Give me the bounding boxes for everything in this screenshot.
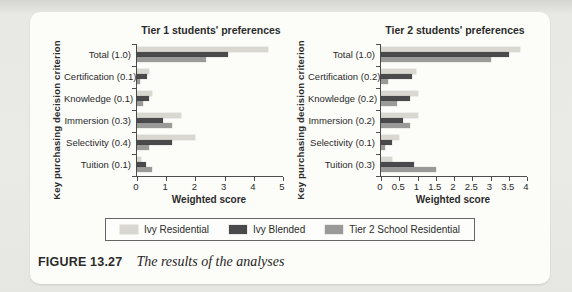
x-axis-tick-label: 2 xyxy=(192,181,197,192)
x-axis-tick-label: 1 xyxy=(163,181,168,192)
y-axis-tick xyxy=(376,154,380,155)
bar xyxy=(381,79,388,84)
y-axis-label: Key purchasing decision criterion xyxy=(51,40,62,200)
category-label: Tuition (0.3) xyxy=(308,154,380,176)
plot-area xyxy=(380,44,527,177)
legend-label: Tier 2 School Residential xyxy=(349,224,460,235)
chart-tier2-students: Key purchasing decision criterion Tier 2… xyxy=(292,20,530,205)
bar xyxy=(381,167,436,172)
category-labels: Total (1.0)Certification (0.2)Knowledge … xyxy=(308,44,380,205)
category-label: Immersion (0.3) xyxy=(64,110,136,132)
category-label: Tuition (0.1) xyxy=(64,154,136,176)
x-axis-label: Weighted score xyxy=(136,194,282,205)
x-axis-tick-label: 0.5 xyxy=(392,181,405,192)
category-label: Selectivity (0.4) xyxy=(64,132,136,154)
legend-label: Ivy Residential xyxy=(144,224,209,235)
y-axis-tick xyxy=(132,154,136,155)
category-label: Certification (0.1) xyxy=(64,66,136,88)
y-axis-tick xyxy=(376,110,380,111)
chart-title: Tier 1 students' preferences xyxy=(136,20,286,44)
legend-swatch-icon xyxy=(325,225,343,234)
plot-wrap: 012345 Weighted score xyxy=(136,44,286,205)
x-axis-label: Weighted score xyxy=(380,194,526,205)
figure-caption: The results of the analyses xyxy=(136,254,284,270)
x-axis-tick-label: 0 xyxy=(133,181,138,192)
x-axis-ticks: 00.511.522.533.54 xyxy=(380,177,526,192)
y-axis-tick xyxy=(132,110,136,111)
category-label: Immersion (0.2) xyxy=(308,110,380,132)
category-labels: Total (1.0)Certification (0.1)Knowledge … xyxy=(64,44,136,205)
y-axis-tick xyxy=(132,88,136,89)
x-axis-tick-label: 0 xyxy=(377,181,382,192)
figure-label: FIGURE 13.27 xyxy=(38,255,122,269)
figure-card: Key purchasing decision criterion Tier 1… xyxy=(30,12,550,284)
category-label: Knowledge (0.1) xyxy=(64,88,136,110)
bar xyxy=(381,57,491,62)
plot-area xyxy=(136,44,283,177)
legend-swatch-icon xyxy=(229,225,247,234)
y-axis-tick xyxy=(376,132,380,133)
charts-row: Key purchasing decision criterion Tier 1… xyxy=(30,12,550,205)
x-axis-tick-label: 2.5 xyxy=(465,181,478,192)
chart-tier1-students: Key purchasing decision criterion Tier 1… xyxy=(48,20,286,205)
bar xyxy=(137,123,172,128)
bar xyxy=(381,123,410,128)
legend-item: Ivy Residential xyxy=(120,224,209,235)
bar xyxy=(381,145,385,150)
bar xyxy=(381,101,397,106)
legend-swatch-icon xyxy=(120,225,138,234)
bar xyxy=(137,145,149,150)
x-axis-tick-label: 5 xyxy=(279,181,284,192)
y-axis-tick xyxy=(376,66,380,67)
y-axis-label-cell: Key purchasing decision criterion xyxy=(292,20,308,205)
y-axis-tick xyxy=(132,44,136,45)
y-axis-tick xyxy=(376,44,380,45)
y-axis-label-cell: Key purchasing decision criterion xyxy=(48,20,64,205)
bar xyxy=(137,79,140,84)
x-axis-tick-label: 4 xyxy=(250,181,255,192)
legend-row: Ivy ResidentialIvy BlendedTier 2 School … xyxy=(30,218,550,241)
legend-item: Ivy Blended xyxy=(229,224,305,235)
figure-caption-row: FIGURE 13.27 The results of the analyses xyxy=(30,254,550,270)
y-axis-tick xyxy=(132,132,136,133)
legend-item: Tier 2 School Residential xyxy=(325,224,460,235)
chart-title: Tier 2 students' preferences xyxy=(380,20,530,44)
category-label: Total (1.0) xyxy=(308,44,380,66)
category-label: Total (1.0) xyxy=(64,44,136,66)
bar xyxy=(137,101,143,106)
x-axis-tick-label: 4 xyxy=(523,181,528,192)
category-label: Selectivity (0.1) xyxy=(308,132,380,154)
x-axis-tick-label: 1 xyxy=(414,181,419,192)
x-axis-tick-label: 1.5 xyxy=(428,181,441,192)
x-axis-ticks: 012345 xyxy=(136,177,282,192)
y-axis-tick xyxy=(376,88,380,89)
bar xyxy=(137,57,206,62)
y-axis-tick xyxy=(132,66,136,67)
category-label: Certification (0.2) xyxy=(308,66,380,88)
category-label: Knowledge (0.2) xyxy=(308,88,380,110)
chart-legend: Ivy ResidentialIvy BlendedTier 2 School … xyxy=(105,218,475,241)
legend-label: Ivy Blended xyxy=(253,224,305,235)
x-axis-tick-label: 3 xyxy=(221,181,226,192)
plot-wrap: 00.511.522.533.54 Weighted score xyxy=(380,44,530,205)
y-axis-label: Key purchasing decision criterion xyxy=(295,40,306,200)
bar xyxy=(137,167,152,172)
x-axis-tick-label: 3.5 xyxy=(501,181,514,192)
x-axis-tick-label: 2 xyxy=(450,181,455,192)
x-axis-tick-label: 3 xyxy=(487,181,492,192)
